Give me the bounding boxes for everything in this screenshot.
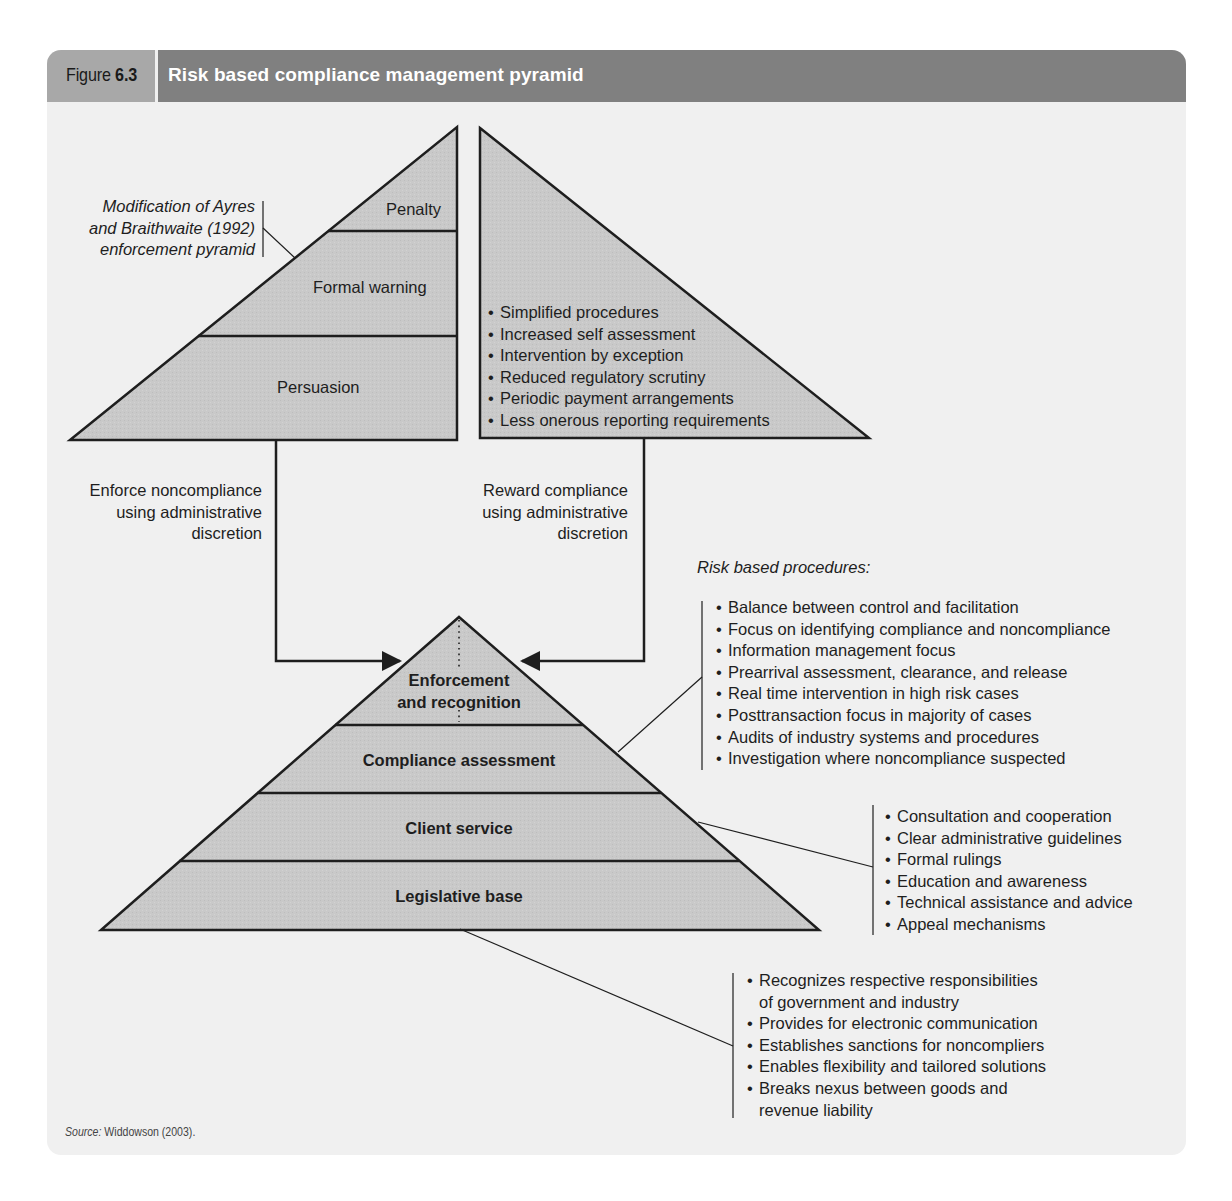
list-item: Increased self assessment [488, 324, 770, 346]
list-item: Balance between control and facilitation [716, 597, 1110, 619]
reward-connector [522, 438, 644, 661]
list-item: Clear administrative guidelines [885, 828, 1133, 850]
annotation-text: Modification of Ayres and Braithwaite (1… [60, 196, 255, 261]
list-item: Recognizes respective responsibilitiesof… [747, 970, 1046, 1013]
list-item: Audits of industry systems and procedure… [716, 727, 1110, 749]
client-service-list: Consultation and cooperation Clear admin… [885, 806, 1133, 936]
list-item: Establishes sanctions for noncompliers [747, 1035, 1046, 1057]
list-item: Posttransaction focus in majority of cas… [716, 705, 1110, 727]
risk-procedures-bracket [618, 601, 702, 770]
list-item: Reduced regulatory scrutiny [488, 367, 770, 389]
source-note: Source: Widdowson (2003). [65, 1125, 195, 1139]
level-formal-warning: Formal warning [313, 277, 427, 299]
list-item: Appeal mechanisms [885, 914, 1133, 936]
list-item: Periodic payment arrangements [488, 388, 770, 410]
main-pyramid [101, 617, 819, 930]
list-item: Education and awareness [885, 871, 1133, 893]
list-item: Focus on identifying compliance and nonc… [716, 619, 1110, 641]
level-compliance-assessment: Compliance assessment [309, 750, 609, 772]
reward-list: Simplified procedures Increased self ass… [488, 302, 770, 432]
list-item: Prearrival assessment, clearance, and re… [716, 662, 1110, 684]
level-legislative-base: Legislative base [309, 886, 609, 908]
enforce-connector [276, 440, 400, 661]
risk-procedures-list: Balance between control and facilitation… [716, 597, 1110, 770]
legislative-bracket [460, 929, 733, 1118]
risk-procedures-heading: Risk based procedures: [697, 557, 870, 579]
annotation-bracket [263, 201, 295, 258]
level-penalty: Penalty [386, 199, 441, 221]
reward-label: Reward compliance using administrative d… [420, 480, 628, 545]
level-client-service: Client service [309, 818, 609, 840]
list-item: Provides for electronic communication [747, 1013, 1046, 1035]
list-item: Less onerous reporting requirements [488, 410, 770, 432]
list-item: Simplified procedures [488, 302, 770, 324]
list-item: Intervention by exception [488, 345, 770, 367]
enforce-label: Enforce noncompliance using administrati… [50, 480, 262, 545]
legislative-list: Recognizes respective responsibilitiesof… [747, 970, 1046, 1121]
level-persuasion: Persuasion [277, 377, 360, 399]
list-item: Consultation and cooperation [885, 806, 1133, 828]
list-item: Investigation where noncompliance suspec… [716, 748, 1110, 770]
list-item: Enables flexibility and tailored solutio… [747, 1056, 1046, 1078]
list-item: Formal rulings [885, 849, 1133, 871]
level-enforcement-recognition: Enforcement and recognition [359, 670, 559, 713]
list-item: Breaks nexus between goods andrevenue li… [747, 1078, 1046, 1121]
list-item: Real time intervention in high risk case… [716, 683, 1110, 705]
list-item: Technical assistance and advice [885, 892, 1133, 914]
list-item: Information management focus [716, 640, 1110, 662]
